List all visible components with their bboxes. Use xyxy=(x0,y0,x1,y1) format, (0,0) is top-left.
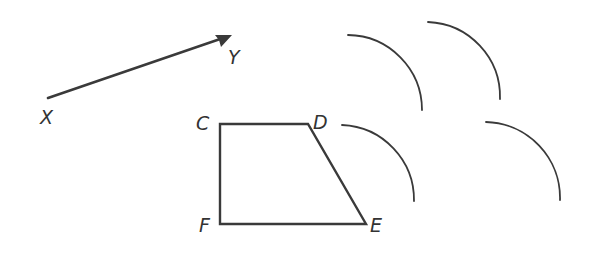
arc-1 xyxy=(348,35,422,110)
trapezoid-cdef: C D E F xyxy=(196,111,382,236)
label-f: F xyxy=(199,214,211,236)
label-x: X xyxy=(39,106,54,128)
vector-xy: X Y xyxy=(39,35,241,128)
label-e: E xyxy=(370,214,382,236)
geometry-diagram: X Y C D E F xyxy=(0,0,594,256)
label-c: C xyxy=(196,112,210,134)
label-y: Y xyxy=(228,46,241,68)
vector-line xyxy=(48,37,226,98)
construction-arcs xyxy=(342,22,560,201)
arc-3 xyxy=(342,125,414,201)
trapezoid-shape xyxy=(220,124,366,224)
arc-2 xyxy=(428,22,500,99)
label-d: D xyxy=(313,111,328,133)
arc-4 xyxy=(486,122,560,200)
